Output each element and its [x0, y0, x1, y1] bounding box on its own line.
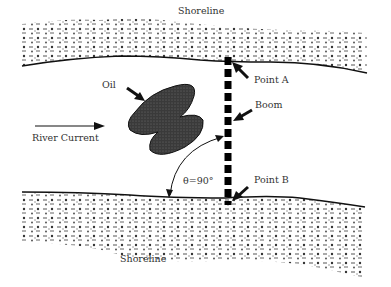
river-current-arrowhead	[94, 122, 105, 130]
river-current-label: River Current	[32, 132, 99, 143]
boom-label: Boom	[255, 99, 282, 110]
shoreline-bottom-label: Shoreline	[120, 253, 166, 264]
point-a-label: Point A	[254, 74, 289, 85]
bottom-shoreline-bank	[22, 192, 365, 278]
shoreline-top-label: Shoreline	[178, 5, 224, 16]
river-boom-diagram	[0, 0, 391, 287]
angle-label: θ=90°	[183, 175, 214, 186]
point-b-label: Point B	[254, 174, 289, 185]
oil-label: Oil	[102, 79, 116, 90]
